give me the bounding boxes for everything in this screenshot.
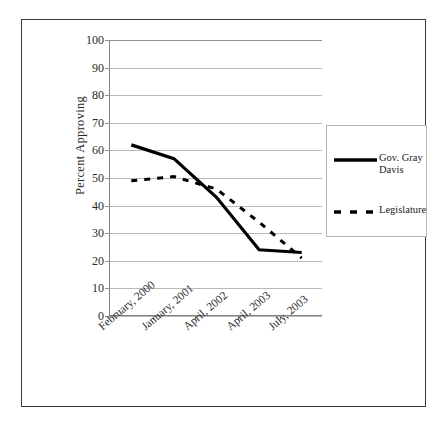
legend-entry-gov-gray-davis: Gov. Gray Davis — [333, 152, 425, 176]
legend-entry-legislature: Legislature — [333, 204, 425, 219]
y-axis-tick-label: 40 — [92, 198, 104, 213]
series-line-legislature — [131, 177, 301, 258]
series-container — [110, 40, 323, 316]
chart-legend: Gov. Gray Davis Legislature — [326, 125, 427, 237]
legend-label-gov-gray-davis: Gov. Gray Davis — [379, 152, 425, 176]
y-axis-tick-label: 30 — [92, 226, 104, 241]
y-axis-tick-label: 100 — [86, 33, 104, 48]
y-axis-tick-label: 50 — [92, 171, 104, 186]
y-axis-tick-label: 20 — [92, 253, 104, 268]
legend-swatch-solid-line-icon — [333, 153, 378, 167]
y-axis-tick-label: 90 — [92, 60, 104, 75]
y-axis-tick-label: 70 — [92, 115, 104, 130]
y-axis-title: Percent Approving — [73, 66, 88, 226]
y-axis-tick-label: 10 — [92, 281, 104, 296]
series-line-gov-gray-davis — [131, 145, 301, 253]
plot-area: 1009080706050403020100February, 2000Janu… — [109, 40, 322, 316]
figure-frame: Percent Approving 1009080706050403020100… — [21, 19, 426, 407]
plot-inner: 1009080706050403020100February, 2000Janu… — [110, 40, 322, 315]
legend-label-legislature: Legislature — [379, 204, 425, 216]
y-axis-tick-label: 80 — [92, 88, 104, 103]
y-axis-tick-label: 60 — [92, 143, 104, 158]
legend-swatch-dashed-line-icon — [333, 205, 378, 219]
